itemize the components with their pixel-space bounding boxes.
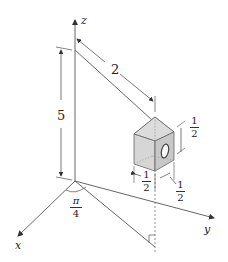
diagram-canvas: z x y 5 2 π 4 1 2 1 2 1 2 xyxy=(0,0,228,262)
angle-fraction: π 4 xyxy=(70,196,82,219)
support-line xyxy=(75,50,152,120)
height-dimension-top-tick xyxy=(56,47,72,50)
x-axis-label: x xyxy=(15,240,21,251)
box-width-fraction: 1 2 xyxy=(142,170,151,193)
box-height-fraction: 1 2 xyxy=(190,116,199,139)
y-axis-label: y xyxy=(204,224,210,235)
right-angle-mark xyxy=(149,235,155,243)
z-axis-label: z xyxy=(81,15,87,26)
house-box xyxy=(134,117,174,171)
height-label: 5 xyxy=(57,109,65,122)
x-axis xyxy=(18,181,75,236)
distance-dimension-line-b xyxy=(120,74,153,101)
distance-label: 2 xyxy=(111,63,119,76)
distance-dimension-line-a xyxy=(77,39,105,62)
box-depth-fraction: 1 2 xyxy=(176,180,185,203)
height-dimension-bottom-tick xyxy=(56,177,72,180)
